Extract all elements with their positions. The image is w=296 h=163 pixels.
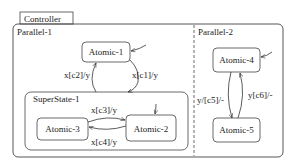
transition-c6: [238, 73, 243, 118]
controller-title: Controller: [24, 14, 61, 24]
transition-label-c2: x[c2]/y: [64, 70, 90, 80]
state-atomic-4-label: Atomic-4: [219, 55, 254, 65]
state-atomic-2-label: Atomic-2: [134, 124, 169, 134]
initial-arrow-atomic-1: [131, 45, 146, 51]
transition-label-c5: y/[c5]/-: [197, 95, 224, 105]
region-label-parallel-2: Parallel-2: [198, 27, 233, 37]
transition-c2: [92, 63, 96, 92]
transition-c4: [89, 126, 126, 129]
state-atomic-2[interactable]: Atomic-2: [126, 115, 176, 141]
state-atomic-3-label: Atomic-3: [45, 124, 80, 134]
initial-arrow-atomic-4: [261, 52, 272, 57]
transition-label-c4: x[c4]/y: [91, 137, 117, 147]
transition-label-c1: x[c1]/y: [132, 70, 158, 80]
statechart-diagram: Controller Parallel-1 Parallel-2 Atomic-…: [0, 0, 296, 163]
state-atomic-5[interactable]: Atomic-5: [213, 118, 260, 142]
controller-tab: Controller: [20, 12, 73, 24]
state-atomic-5-label: Atomic-5: [219, 125, 254, 135]
initial-arrow-atomic-2: [155, 104, 156, 114]
region-label-parallel-1: Parallel-1: [17, 27, 52, 37]
superstate-1-label: SuperState-1: [33, 94, 80, 104]
state-atomic-1-label: Atomic-1: [89, 47, 124, 57]
state-atomic-1[interactable]: Atomic-1: [82, 42, 130, 62]
transition-label-c6: y[c6]/-: [248, 90, 273, 100]
state-atomic-3[interactable]: Atomic-3: [37, 118, 88, 140]
transition-c3: [88, 118, 125, 122]
transition-label-c3: x[c3]/y: [91, 105, 117, 115]
state-atomic-4[interactable]: Atomic-4: [213, 48, 260, 72]
transition-c5: [228, 72, 232, 118]
